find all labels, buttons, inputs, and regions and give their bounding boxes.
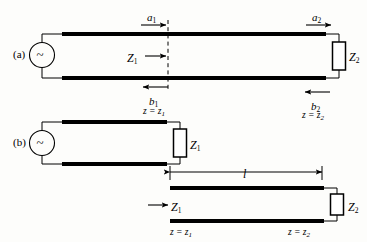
label-length-l: l — [243, 165, 246, 181]
panel-label-a: (a) — [13, 49, 25, 60]
impedance-box-z2-a — [333, 42, 346, 70]
load-lead-bottom-a — [326, 70, 339, 78]
label-a1: a1 — [147, 8, 156, 25]
load-lead-bottom-b-top — [167, 157, 180, 164]
label-z1-a: Z1 — [127, 49, 137, 66]
source-lead-top-a — [42, 34, 62, 43]
source-lead-bottom-a — [42, 68, 62, 79]
figure-canvas: (a) (b) ~ ~ a1 a2 b1 b2 Z1 Z2 z = z1 z =… — [0, 0, 367, 242]
panel-label-b: (b) — [13, 137, 26, 148]
impedance-box-z1-b — [174, 129, 187, 157]
label-a2: a2 — [312, 8, 321, 25]
source-lead-top-b — [42, 122, 62, 131]
label-plane-z1-b: z = z1 — [170, 228, 192, 239]
label-z1-b-top: Z1 — [190, 136, 200, 153]
source-lead-bottom-b — [42, 156, 62, 165]
label-plane-z2-a: z = z2 — [302, 111, 324, 122]
load-lead-top-b-top — [167, 122, 180, 129]
label-z2-a: Z2 — [349, 48, 359, 65]
load-lead-top-a — [326, 34, 339, 42]
impedance-box-z2-b — [331, 194, 344, 215]
ac-waveform-glyph-a: ~ — [37, 47, 44, 63]
label-z1-b-bottom: Z1 — [171, 198, 181, 215]
label-z2-b-bottom: Z2 — [348, 198, 358, 215]
label-plane-z1-a: z = z1 — [143, 107, 165, 118]
label-plane-z2-b: z = z2 — [288, 228, 310, 239]
ac-waveform-glyph-b: ~ — [37, 135, 44, 151]
